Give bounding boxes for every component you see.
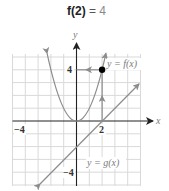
f-curve-label: y = f(x) <box>106 58 138 70</box>
point-2-4 <box>99 67 105 73</box>
tick-x-2: 2 <box>99 124 104 135</box>
y-axis-label: y <box>72 29 78 40</box>
function-graph: x y −4 2 4 −4 y = f(x) y = g(x) <box>0 0 169 191</box>
tick-x-neg4: −4 <box>14 124 25 135</box>
x-axis-label: x <box>155 115 161 126</box>
g-curve-label: y = g(x) <box>86 157 120 169</box>
tick-y-neg4: −4 <box>63 167 74 178</box>
tick-y-4: 4 <box>67 64 72 75</box>
